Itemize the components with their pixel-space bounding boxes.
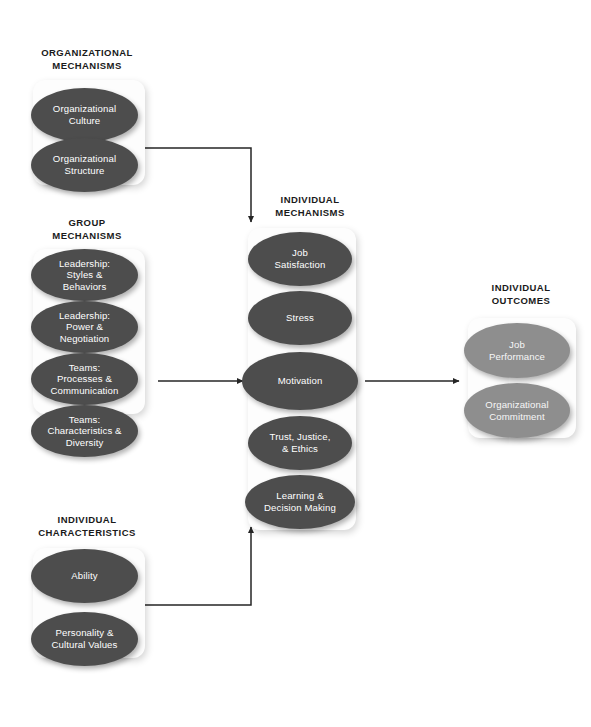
heading-individual-mechanisms: INDIVIDUAL MECHANISMS [245, 193, 375, 219]
node-learning-decision-making[interactable]: Learning & Decision Making [245, 475, 355, 529]
node-leadership-power-negotiation[interactable]: Leadership: Power & Negotiation [31, 301, 138, 353]
heading-individual-characteristics: INDIVIDUAL CHARACTERISTICS [19, 513, 155, 539]
node-organizational-culture[interactable]: Organizational Culture [31, 88, 138, 142]
heading-individual-outcomes: INDIVIDUAL OUTCOMES [461, 281, 581, 307]
node-personality-cultural-values[interactable]: Personality & Cultural Values [31, 612, 138, 666]
connector-characteristics-to-mechanisms [140, 527, 251, 605]
node-ability[interactable]: Ability [31, 549, 138, 603]
heading-group-mechanisms: GROUP MECHANISMS [22, 216, 152, 242]
node-leadership-styles-behaviors[interactable]: Leadership: Styles & Behaviors [31, 249, 138, 301]
heading-organizational-mechanisms: ORGANIZATIONAL MECHANISMS [22, 46, 152, 72]
node-stress[interactable]: Stress [248, 291, 352, 345]
connector-organizational-to-mechanisms [140, 148, 251, 222]
node-motivation[interactable]: Motivation [242, 352, 358, 410]
node-organizational-structure[interactable]: Organizational Structure [31, 138, 138, 192]
organizational-behavior-diagram: ORGANIZATIONAL MECHANISMS Organizational… [0, 0, 591, 727]
node-teams-processes-communication[interactable]: Teams: Processes & Communication [31, 353, 138, 405]
node-job-performance[interactable]: Job Performance [464, 323, 570, 378]
node-organizational-commitment[interactable]: Organizational Commitment [464, 383, 570, 438]
node-teams-characteristics-diversity[interactable]: Teams: Characteristics & Diversity [31, 405, 138, 457]
node-job-satisfaction[interactable]: Job Satisfaction [248, 232, 352, 286]
node-trust-justice-ethics[interactable]: Trust, Justice, & Ethics [248, 416, 352, 470]
